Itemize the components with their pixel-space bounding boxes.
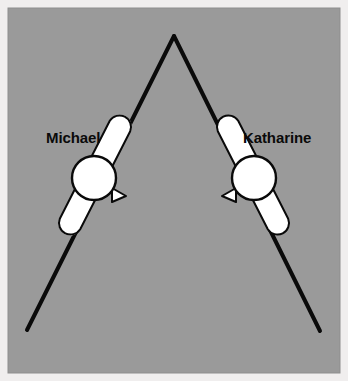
figure-panel xyxy=(8,8,340,373)
katharine-head xyxy=(232,156,276,200)
figure-container: Michael Katharine xyxy=(0,0,348,381)
formation-diagram: Michael Katharine xyxy=(0,0,348,381)
michael-label: Michael xyxy=(46,129,100,146)
michael-head xyxy=(72,156,116,200)
katharine-label: Katharine xyxy=(243,129,311,146)
